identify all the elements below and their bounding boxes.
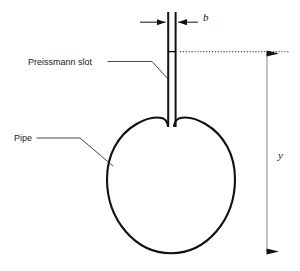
preissmann-slot-walls: [168, 12, 175, 127]
flow-depth-label: y: [277, 149, 283, 161]
slot-width-label: b: [203, 11, 209, 23]
preissmann-slot-leader-line: [108, 62, 168, 79]
preissmann-slot-diagram: Preissmann slot Pipe b y: [0, 0, 300, 271]
pipe-label: Pipe: [14, 133, 32, 143]
preissmann-slot-label: Preissmann slot: [28, 57, 93, 67]
pipe-leader-line: [37, 138, 113, 166]
pipe-outline: [107, 117, 235, 253]
diagram-canvas: Preissmann slot Pipe b y: [0, 0, 300, 271]
